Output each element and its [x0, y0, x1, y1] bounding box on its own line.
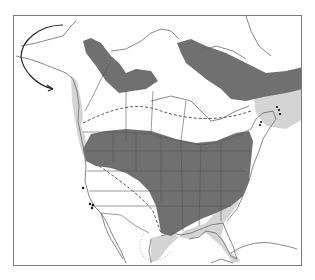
map-frame [13, 15, 302, 266]
migration-arrow [21, 25, 63, 91]
range-map [14, 16, 302, 266]
